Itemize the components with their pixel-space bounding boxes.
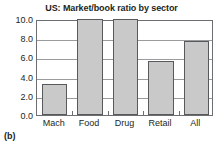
bar-slot [108, 21, 143, 115]
y-axis: 0.02.04.06.08.010.0 [0, 18, 36, 118]
chart-title: US: Market/book ratio by sector [0, 3, 223, 13]
bar-slot [72, 21, 107, 115]
y-tick-label: 0.0 [20, 112, 33, 121]
plot-area [36, 20, 213, 116]
x-tick-label: Retail [148, 118, 171, 129]
x-tick-label: All [190, 118, 200, 129]
bar [42, 84, 67, 115]
figure-panel: US: Market/book ratio by sector 0.02.04.… [0, 0, 223, 153]
chart-plot-wrapper: 0.02.04.06.08.010.0 MachFoodDrugRetailAl… [0, 18, 223, 124]
x-tick-label: Drug [115, 118, 135, 129]
figure-caption: (b) [4, 131, 16, 141]
bar [184, 41, 209, 115]
x-axis-tick [72, 111, 73, 115]
bar [77, 19, 102, 115]
y-tick-label: 6.0 [20, 54, 33, 63]
y-tick-label: 4.0 [20, 73, 33, 82]
x-axis: MachFoodDrugRetailAll [36, 117, 213, 131]
bar [113, 19, 138, 115]
y-tick-label: 2.0 [20, 92, 33, 101]
x-axis-tick [108, 111, 109, 115]
x-tick-label: Mach [43, 118, 65, 129]
bar-slot [179, 21, 214, 115]
x-axis-tick [143, 111, 144, 115]
bar-slot [143, 21, 178, 115]
y-tick-label: 10.0 [15, 16, 33, 25]
y-tick-label: 8.0 [20, 35, 33, 44]
bar-slot [37, 21, 72, 115]
x-tick-label: Food [79, 118, 100, 129]
bar-series [37, 21, 212, 115]
bar [148, 61, 173, 115]
x-axis-tick [179, 111, 180, 115]
